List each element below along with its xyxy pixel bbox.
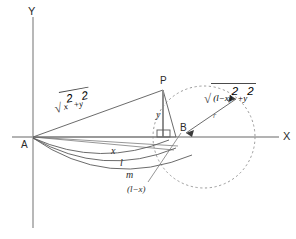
curve-label-m: m — [126, 170, 133, 180]
right-exp2: 2 — [247, 85, 253, 97]
y-axis-label: Y — [28, 6, 35, 17]
arc-curve-x — [33, 138, 169, 154]
figure-canvas — [0, 0, 296, 239]
left-exp1: 2 — [65, 92, 73, 105]
point-label-p: P — [160, 76, 167, 86]
axes-group — [12, 17, 279, 228]
right-distance-expression: √(l−x)2+y2 — [204, 83, 256, 105]
point-label-a: A — [21, 140, 28, 150]
radius-arrowhead-lower — [186, 130, 194, 137]
base-offset-label: (l−x) — [127, 185, 146, 194]
curve-label-x: x — [111, 146, 115, 156]
geometry-figure: Y X A P B y x l m r (l−x) √x2+y2 √(l−x)2… — [0, 0, 296, 239]
x-axis-label: X — [283, 131, 290, 142]
chord-fan-from-a — [33, 137, 178, 150]
curve-label-l: l — [120, 158, 123, 168]
right-term1: (l−x) — [213, 93, 232, 103]
right-radical-sign: √ — [204, 91, 211, 107]
leader-line-group — [148, 133, 181, 182]
point-label-b: B — [180, 123, 187, 133]
left-exp2: 2 — [80, 89, 88, 102]
leader-line-base-offset — [148, 133, 181, 182]
radius-label-r: r — [213, 112, 216, 120]
segment-label-y: y — [156, 110, 160, 120]
